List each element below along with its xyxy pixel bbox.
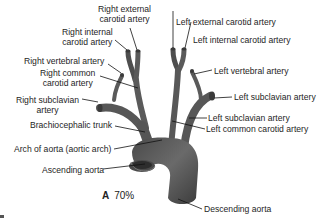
label-left-vertebral: Left vertebral artery (214, 66, 289, 76)
label-left-common-carotid: Left common carotid artery (206, 124, 308, 134)
label-right-internal-carotid: Right internal carotid artery (62, 27, 113, 47)
aortic-arch-diagram: Right external carotid artery Right inte… (0, 0, 320, 218)
label-line: carotid artery (62, 37, 113, 47)
label-arch-of-aorta: Arch of aorta (aortic arch) (14, 144, 111, 154)
figure-caption: A70% (102, 190, 134, 201)
label-line: carotid artery (40, 78, 95, 88)
zoom-percent: 70% (114, 190, 134, 201)
label-descending-aorta: Descending aorta (204, 204, 271, 214)
label-left-external-carotid: Left external carotid artery (176, 17, 276, 27)
label-line: Right external (98, 4, 151, 14)
right-vessels (100, 52, 150, 148)
label-line: Right internal (62, 27, 113, 37)
label-right-vertebral: Right vertebral artery (24, 56, 104, 66)
label-left-internal-carotid: Left internal carotid artery (193, 35, 290, 45)
label-line: Right subclavian (16, 95, 79, 105)
label-right-subclavian: Right subclavian artery (16, 95, 79, 115)
label-left-subclavian-lower: Left subclavian artery (208, 113, 290, 123)
label-line: carotid artery (98, 14, 151, 24)
label-line: Right common (40, 68, 95, 78)
label-brachiocephalic-trunk: Brachiocephalic trunk (30, 120, 112, 130)
left-vessels (171, 50, 210, 148)
label-line: artery (16, 105, 79, 115)
label-ascending-aorta: Ascending aorta (42, 165, 104, 175)
label-right-external-carotid: Right external carotid artery (98, 4, 151, 24)
corner-mark (0, 215, 4, 218)
panel-letter: A (102, 190, 109, 201)
label-left-subclavian-upper: Left subclavian artery (234, 92, 316, 102)
aorta (129, 138, 198, 204)
label-right-common-carotid: Right common carotid artery (40, 68, 95, 88)
